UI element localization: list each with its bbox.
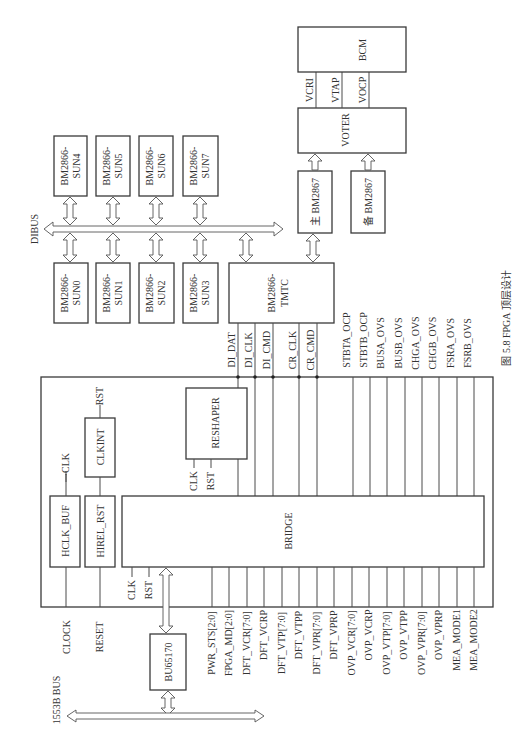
reshaper-clk-rst: CLK RST bbox=[188, 459, 216, 491]
svg-text:FSRA_OVS: FSRA_OVS bbox=[445, 318, 456, 368]
svg-text:CR_CLK: CR_CLK bbox=[287, 330, 298, 369]
svg-text:VOTER: VOTER bbox=[340, 113, 351, 147]
svg-text:SUN5: SUN5 bbox=[113, 153, 124, 178]
voter-block: VOTER bbox=[298, 108, 406, 153]
fpga-boundary bbox=[41, 377, 493, 607]
reshaper-block: RESHAPER bbox=[186, 388, 247, 459]
svg-text:STBTB_OCP: STBTB_OCP bbox=[358, 312, 369, 368]
svg-text:OVP_VPR[7:0]: OVP_VPR[7:0] bbox=[416, 611, 427, 675]
svg-text:VOCP: VOCP bbox=[357, 76, 368, 103]
svg-text:PWR_STS[2:0]: PWR_STS[2:0] bbox=[206, 611, 217, 674]
bottom-signal-labels: PWR_STS[2:0] FPGA_MD[2:0] DFT_VCR[7:0] D… bbox=[206, 609, 479, 676]
top-output-signals: STBTA_OCP STBTB_OCP BUSA_OVS BUSB_OVS CH… bbox=[341, 312, 474, 496]
svg-text:CHGB_OVS: CHGB_OVS bbox=[427, 317, 438, 370]
svg-text:MEA_MODE2: MEA_MODE2 bbox=[468, 609, 479, 671]
svg-text:SUN2: SUN2 bbox=[156, 280, 167, 305]
figure-caption: 图 5.8 FPGA 顶层设计 bbox=[500, 270, 512, 365]
bus1553b-label: 1553B BUS bbox=[51, 676, 62, 725]
svg-text:DFT_VCRP: DFT_VCRP bbox=[258, 610, 269, 660]
sun-block-2: BM2866- SUN2 bbox=[139, 263, 174, 323]
svg-text:BUSB_OVS: BUSB_OVS bbox=[393, 317, 404, 368]
hclk-buf-block: HCLK_BUF bbox=[50, 496, 80, 567]
svg-text:OVP_VTP[7:0]: OVP_VTP[7:0] bbox=[381, 611, 392, 674]
svg-text:BM2866-: BM2866- bbox=[59, 147, 70, 186]
svg-text:HCLK_BUF: HCLK_BUF bbox=[60, 505, 71, 557]
svg-text:DFT_VTP[7:0]: DFT_VTP[7:0] bbox=[276, 612, 287, 674]
svg-text:MEA_MODE1: MEA_MODE1 bbox=[451, 609, 462, 671]
svg-text:FPGA_MD[2:0]: FPGA_MD[2:0] bbox=[223, 610, 234, 676]
svg-text:SUN3: SUN3 bbox=[200, 280, 211, 305]
svg-text:BM2866-: BM2866- bbox=[101, 147, 112, 186]
bm2867-main-block: 主 BM2867 bbox=[298, 171, 332, 233]
sun-block-6: BM2866- SUN6 bbox=[139, 136, 173, 196]
svg-text:BM2866-: BM2866- bbox=[144, 147, 155, 186]
svg-text:OVP_VPRP: OVP_VPRP bbox=[433, 610, 444, 660]
svg-text:CLKINT: CLKINT bbox=[95, 429, 106, 466]
bu65170-block: BU65170 bbox=[150, 634, 186, 690]
svg-text:VTAP: VTAP bbox=[330, 77, 341, 103]
svg-text:BM2866-: BM2866- bbox=[266, 274, 277, 313]
svg-text:OVP_VCRP: OVP_VCRP bbox=[363, 609, 374, 661]
svg-text:FSRB_OVS: FSRB_OVS bbox=[462, 318, 473, 367]
svg-text:STBTA_OCP: STBTA_OCP bbox=[341, 312, 352, 368]
dibus-label: DIBUS bbox=[29, 214, 40, 244]
svg-text:DI_CMD: DI_CMD bbox=[261, 331, 272, 369]
svg-text:SUN6: SUN6 bbox=[156, 153, 167, 178]
svg-text:DFT_VPRP: DFT_VPRP bbox=[328, 610, 339, 659]
bottom-signal-lines bbox=[212, 567, 474, 607]
svg-text:CLK: CLK bbox=[126, 579, 137, 600]
backup-to-voter-arrow bbox=[361, 154, 375, 170]
svg-text:VCRI: VCRI bbox=[304, 78, 315, 102]
bcm-block: BCM bbox=[298, 27, 406, 72]
svg-text:DI_DAT: DI_DAT bbox=[226, 333, 237, 368]
svg-text:BCM: BCM bbox=[357, 39, 368, 61]
bm2867-backup-block: 备 BM2867 bbox=[351, 171, 385, 233]
bu65170-bus-arrow bbox=[161, 691, 175, 715]
svg-text:RST: RST bbox=[94, 387, 105, 405]
svg-text:BU65170: BU65170 bbox=[163, 643, 174, 682]
svg-text:DFT_VPR[7:0]: DFT_VPR[7:0] bbox=[311, 612, 322, 675]
svg-text:CR_CMD: CR_CMD bbox=[305, 329, 316, 370]
bridge-bu65170-arrow bbox=[159, 568, 173, 633]
svg-text:DFT_VTPP: DFT_VTPP bbox=[293, 610, 304, 659]
tmtc-bm2867-arrow bbox=[306, 234, 320, 262]
svg-text:SUN7: SUN7 bbox=[200, 153, 211, 178]
svg-text:主 BM2867: 主 BM2867 bbox=[310, 178, 321, 226]
svg-text:OVP_VTPP: OVP_VTPP bbox=[398, 610, 409, 660]
svg-text:TMTC: TMTC bbox=[279, 279, 290, 307]
reset-input-label: RESET bbox=[94, 622, 105, 653]
svg-text:CLK: CLK bbox=[60, 452, 71, 473]
svg-text:RST: RST bbox=[205, 472, 216, 490]
svg-text:OVP_VCR[7:0]: OVP_VCR[7:0] bbox=[346, 610, 357, 675]
sun-block-7: BM2866- SUN7 bbox=[183, 136, 218, 196]
tmtc-block: BM2866- TMTC bbox=[229, 263, 334, 323]
sun-block-0: BM2866- SUN0 bbox=[54, 263, 88, 323]
svg-text:BM2866-: BM2866- bbox=[144, 274, 155, 313]
svg-text:RESHAPER: RESHAPER bbox=[210, 397, 221, 448]
svg-text:HIREL_RST: HIREL_RST bbox=[95, 505, 106, 558]
hirel-rst-block: HIREL_RST bbox=[85, 496, 115, 567]
svg-text:BM2866-: BM2866- bbox=[59, 274, 70, 313]
svg-text:备 BM2867: 备 BM2867 bbox=[362, 178, 374, 226]
sun-block-1: BM2866- SUN1 bbox=[96, 263, 130, 323]
svg-text:SUN0: SUN0 bbox=[71, 280, 82, 305]
fpga-top-level-diagram: BM2866- SUN4 BM2866- SUN5 BM2866- SUN6 B… bbox=[0, 0, 519, 740]
svg-text:DI_CLK: DI_CLK bbox=[243, 331, 254, 367]
svg-text:BM2866-: BM2866- bbox=[188, 274, 199, 313]
bridge-block: BRIDGE bbox=[122, 496, 484, 567]
sun-block-4: BM2866- SUN4 bbox=[54, 136, 87, 196]
main-to-voter-arrow bbox=[308, 154, 322, 170]
svg-text:DFT_VCR[7:0]: DFT_VCR[7:0] bbox=[241, 611, 252, 675]
svg-text:BUSA_OVS: BUSA_OVS bbox=[375, 317, 386, 369]
clock-input-label: CLOCK bbox=[61, 619, 72, 654]
sun-block-3: BM2866- SUN3 bbox=[183, 263, 218, 323]
svg-text:BRIDGE: BRIDGE bbox=[283, 512, 294, 549]
clkint-block: CLKINT bbox=[85, 418, 115, 477]
bridge-clk-rst: CLK RST bbox=[126, 567, 154, 600]
svg-text:CHGA_OVS: CHGA_OVS bbox=[410, 316, 421, 369]
svg-text:BM2866-: BM2866- bbox=[101, 274, 112, 313]
svg-text:RST: RST bbox=[143, 581, 154, 599]
voter-bcm-signals: VCRI VTAP VOCP bbox=[304, 72, 369, 108]
svg-text:SUN4: SUN4 bbox=[71, 153, 82, 178]
sun-block-5: BM2866- SUN5 bbox=[96, 136, 130, 196]
